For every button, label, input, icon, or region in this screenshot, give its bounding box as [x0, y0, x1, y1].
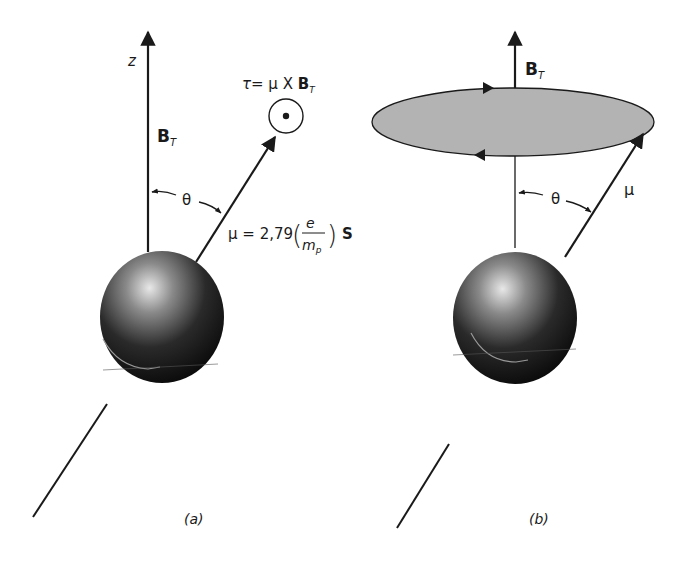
panel-a: z BT θ τ= μ X BT μ = 2,79 ( e mp ) S — [33, 32, 353, 527]
magnetic-moment-arrow — [196, 137, 275, 262]
svg-text:mp: mp — [302, 237, 322, 255]
svg-text:e: e — [306, 215, 315, 231]
theta-angle-arc-right — [199, 202, 221, 213]
panel-a-caption: (a) — [184, 511, 204, 527]
svg-text:μ = 2,79: μ = 2,79 — [228, 225, 293, 243]
theta-label: θ — [551, 190, 560, 208]
out-of-page-dot-center — [283, 113, 289, 119]
torque-equation-label: τ= μ X BT — [242, 75, 316, 95]
svg-text:): ) — [327, 220, 337, 250]
mu-label: μ — [624, 180, 634, 199]
theta-angle-arc — [519, 192, 543, 195]
precession-orbit — [372, 88, 654, 156]
theta-angle-arc — [152, 191, 176, 195]
spin-axis-lower-line — [33, 404, 107, 517]
proton-sphere — [453, 252, 577, 384]
svg-text:S: S — [342, 225, 353, 243]
z-axis-label: z — [127, 52, 137, 70]
theta-label: θ — [182, 191, 191, 209]
proton-sphere — [100, 251, 224, 383]
field-label-b: BT — [525, 59, 545, 81]
proton-magnetic-moment-diagram: z BT θ τ= μ X BT μ = 2,79 ( e mp ) S — [0, 0, 689, 566]
spin-axis-lower-line — [397, 444, 449, 528]
panel-b-caption: (b) — [529, 511, 549, 527]
magnetic-moment-equation: μ = 2,79 ( e mp ) S — [228, 215, 353, 255]
field-label-b: BT — [157, 126, 177, 148]
panel-b: BT μ θ (b) — [372, 32, 654, 528]
svg-text:(: ( — [292, 220, 302, 250]
theta-angle-arc-right — [566, 201, 591, 212]
